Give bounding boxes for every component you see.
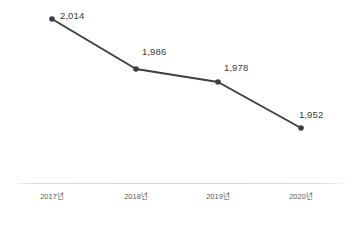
data-label-2018: 1,986 — [142, 47, 166, 57]
x-axis-line — [12, 183, 350, 184]
data-label-2020: 1,952 — [299, 110, 323, 120]
data-point-2018년 — [133, 66, 139, 72]
data-point-2017년 — [49, 16, 55, 22]
series-markers — [49, 16, 304, 131]
line-chart: 2,014 1,986 1,978 1,952 2017년 2018년 2019… — [0, 0, 363, 229]
x-tick-label-2019: 2019년 — [206, 193, 230, 201]
x-tick-label-2017: 2017년 — [40, 193, 64, 201]
series-line — [52, 19, 301, 128]
data-point-2019년 — [215, 79, 221, 85]
data-label-2019: 1,978 — [224, 63, 248, 73]
data-label-2017: 2,014 — [60, 11, 84, 21]
data-point-2020년 — [298, 125, 304, 131]
x-tick-label-2018: 2018년 — [124, 193, 148, 201]
x-tick-label-2020: 2020년 — [289, 193, 313, 201]
